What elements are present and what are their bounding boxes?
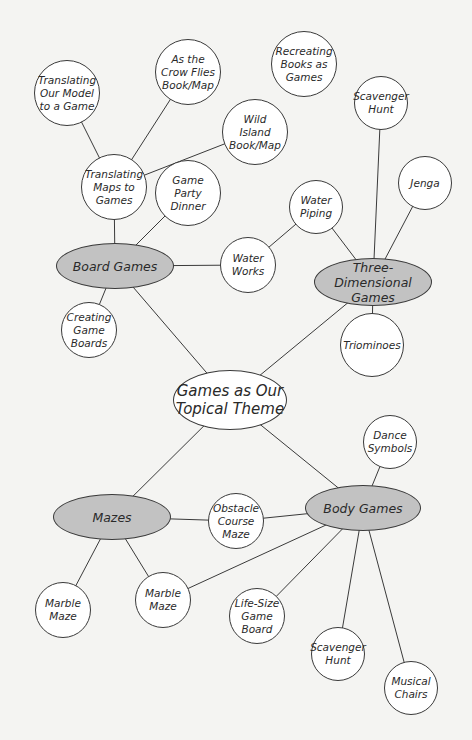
node-label: Jenga: [410, 177, 439, 190]
hub-node-threed: Three-Dimensional Games: [314, 258, 432, 306]
node-label: Game Party Dinner: [170, 174, 205, 213]
node-label: Obstacle Course Maze: [213, 502, 259, 541]
leaf-node-crow: As the Crow Flies Book/Map: [155, 39, 221, 105]
node-label: As the Crow Flies Book/Map: [161, 53, 215, 92]
node-label: Marble Maze: [145, 587, 181, 613]
hub-node-mazes: Mazes: [53, 494, 171, 540]
node-label: Body Games: [323, 501, 402, 516]
node-label: Scavenger Hunt: [353, 90, 409, 116]
node-label: Games as Our Topical Theme: [176, 382, 284, 418]
leaf-node-marble1: Marble Maze: [35, 582, 91, 638]
node-label: Board Games: [73, 259, 158, 274]
node-label: Marble Maze: [45, 597, 81, 623]
leaf-node-obstacle: Obstacle Course Maze: [208, 493, 264, 549]
node-label: Translating Our Model to a Game: [38, 74, 96, 113]
leaf-node-triominoes: Triominoes: [340, 313, 404, 377]
node-label: Scavenger Hunt: [310, 641, 366, 667]
hub-node-body: Body Games: [305, 485, 421, 531]
node-label: Translating Maps to Games: [85, 168, 143, 207]
leaf-node-scav1: Scavenger Hunt: [354, 76, 408, 130]
leaf-node-dance: Dance Symbols: [363, 415, 417, 469]
node-label: Mazes: [92, 510, 131, 525]
leaf-node-wild: Wild Island Book/Map: [222, 99, 288, 165]
leaf-node-piping: Water Piping: [289, 180, 343, 234]
concept-map: Games as Our Topical ThemeBoard GamesThr…: [0, 0, 472, 740]
leaf-node-marble2: Marble Maze: [135, 572, 191, 628]
leaf-node-lifesize: Life-Size Game Board: [229, 588, 285, 644]
node-label: Dance Symbols: [368, 429, 413, 455]
leaf-node-model: Translating Our Model to a Game: [34, 60, 100, 126]
leaf-node-works: Water Works: [220, 237, 276, 293]
center-node-center: Games as Our Topical Theme: [173, 370, 287, 430]
node-label: Recreating Books as Games: [275, 45, 332, 84]
leaf-node-party: Game Party Dinner: [155, 160, 221, 226]
node-label: Water Piping: [300, 194, 332, 220]
node-label: Musical Chairs: [391, 675, 430, 701]
leaf-node-maps: Translating Maps to Games: [81, 154, 147, 220]
leaf-node-jenga: Jenga: [398, 156, 452, 210]
leaf-node-musical: Musical Chairs: [384, 661, 438, 715]
node-label: Triominoes: [343, 339, 400, 352]
hub-node-board: Board Games: [56, 243, 174, 289]
leaf-node-recreating: Recreating Books as Games: [271, 31, 337, 97]
node-label: Wild Island Book/Map: [229, 113, 281, 152]
node-label: Creating Game Boards: [67, 311, 112, 350]
leaf-node-creating: Creating Game Boards: [61, 302, 117, 358]
node-label: Three-Dimensional Games: [315, 260, 431, 305]
leaf-node-scav2: Scavenger Hunt: [311, 627, 365, 681]
node-label: Water Works: [232, 252, 265, 278]
node-label: Life-Size Game Board: [235, 597, 279, 636]
